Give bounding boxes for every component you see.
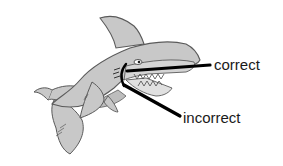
shark-dorsal-fin xyxy=(100,16,144,48)
shark-diagram xyxy=(0,0,283,166)
label-incorrect: incorrect xyxy=(183,110,241,125)
label-correct: correct xyxy=(214,57,260,72)
